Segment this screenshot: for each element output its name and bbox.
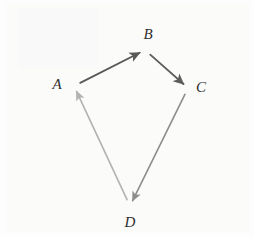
vertex-label-a: A bbox=[52, 77, 61, 92]
edge-a-to-b bbox=[80, 53, 139, 83]
figure-canvas: A B C D bbox=[0, 0, 254, 237]
edge-b-to-c bbox=[150, 55, 183, 84]
vertex-label-c: C bbox=[196, 80, 206, 95]
edge-layer bbox=[77, 53, 185, 201]
directed-cycle-graph bbox=[0, 0, 254, 237]
edge-d-to-a bbox=[77, 91, 128, 199]
edge-c-to-d bbox=[133, 94, 185, 200]
vertex-label-b: B bbox=[143, 27, 152, 42]
vertex-label-d: D bbox=[125, 215, 136, 230]
